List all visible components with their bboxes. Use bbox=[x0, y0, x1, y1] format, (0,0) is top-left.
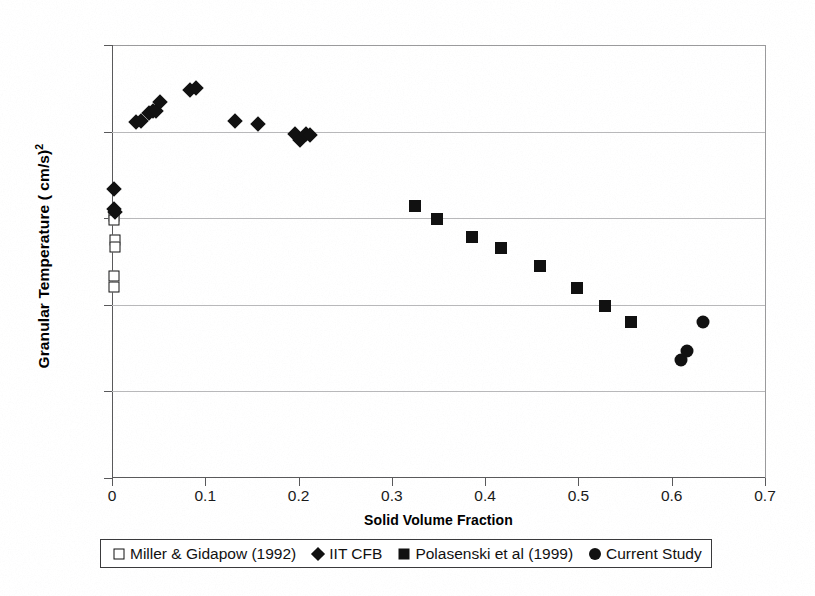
legend-label: Miller & Gidapow (1992) bbox=[130, 546, 296, 562]
data-point bbox=[571, 282, 583, 294]
y-tick-100000 bbox=[104, 45, 112, 46]
x-tick-0.2 bbox=[299, 478, 300, 486]
legend-label: Current Study bbox=[606, 546, 702, 562]
y-tick-100 bbox=[104, 305, 112, 306]
y-tick-1 bbox=[104, 478, 112, 479]
y-axis-title-text: Granular Temperature ( cm/s) bbox=[35, 150, 52, 369]
gridline-y-10000 bbox=[112, 132, 765, 133]
x-tick-label-0.3: 0.3 bbox=[362, 488, 422, 504]
x-tick-0.5 bbox=[578, 478, 579, 486]
x-tick-0.3 bbox=[392, 478, 393, 486]
x-tick-0.6 bbox=[672, 478, 673, 486]
data-point bbox=[599, 300, 611, 312]
legend-filled-diamond-icon bbox=[309, 546, 326, 562]
x-tick-label-0.2: 0.2 bbox=[269, 488, 329, 504]
x-axis-title: Solid Volume Fraction bbox=[112, 512, 765, 528]
data-point bbox=[466, 231, 478, 243]
x-tick-label-0.1: 0.1 bbox=[175, 488, 235, 504]
legend-filled-square-icon bbox=[395, 546, 412, 562]
x-tick-0.4 bbox=[485, 478, 486, 486]
data-point bbox=[680, 345, 693, 358]
x-tick-0.7 bbox=[765, 478, 766, 486]
legend-open-square-icon bbox=[110, 546, 127, 562]
legend-label: Polasenski et al (1999) bbox=[415, 546, 573, 562]
legend-entry-2[interactable]: IIT CFB bbox=[309, 546, 382, 562]
gridline-y-10 bbox=[112, 391, 765, 392]
legend-entry-1[interactable]: Miller & Gidapow (1992) bbox=[110, 546, 296, 562]
data-point bbox=[409, 200, 421, 212]
data-point bbox=[495, 242, 507, 254]
plot-area bbox=[112, 45, 765, 478]
data-point bbox=[109, 241, 120, 252]
legend-filled-circle-icon bbox=[586, 546, 603, 562]
x-tick-label-0: 0 bbox=[82, 488, 142, 504]
chart-legend: Miller & Gidapow (1992)IIT CFBPolasenski… bbox=[100, 539, 712, 568]
x-tick-0.1 bbox=[205, 478, 206, 486]
legend-entry-4[interactable]: Current Study bbox=[586, 546, 702, 562]
data-point bbox=[534, 260, 546, 272]
x-tick-label-0.4: 0.4 bbox=[455, 488, 515, 504]
x-tick-label-0.7: 0.7 bbox=[735, 488, 795, 504]
x-tick-label-0.6: 0.6 bbox=[642, 488, 702, 504]
plot-frame-right bbox=[765, 45, 766, 478]
granular-temperature-scatter-chart: 110100100010000100000 00.10.20.30.40.50.… bbox=[0, 0, 815, 596]
x-tick-0 bbox=[112, 478, 113, 486]
data-point bbox=[108, 271, 119, 282]
data-point bbox=[625, 316, 637, 328]
x-tick-label-0.5: 0.5 bbox=[548, 488, 608, 504]
data-point bbox=[697, 316, 710, 329]
y-axis-title-exponent: 2 bbox=[33, 144, 45, 150]
legend-entry-3[interactable]: Polasenski et al (1999) bbox=[395, 546, 573, 562]
legend-label: IIT CFB bbox=[329, 546, 382, 562]
data-point bbox=[108, 282, 119, 293]
y-tick-10000 bbox=[104, 132, 112, 133]
data-point bbox=[431, 213, 443, 225]
gridline-y-100 bbox=[112, 305, 765, 306]
y-tick-10 bbox=[104, 391, 112, 392]
y-axis-title: Granular Temperature ( cm/s)2 bbox=[33, 76, 53, 436]
